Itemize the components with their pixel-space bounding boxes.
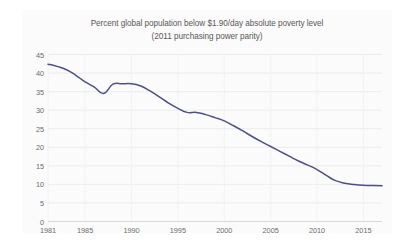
y-tick-label: 15 [22, 161, 44, 170]
chart-svg [22, 10, 392, 233]
x-tick-label: 1990 [112, 226, 152, 235]
x-tick-label: 2010 [297, 226, 337, 235]
vertical-gridlines [48, 55, 363, 222]
x-tick-label: 1995 [158, 226, 198, 235]
y-tick-label: 30 [22, 106, 44, 115]
y-tick-label: 5 [22, 198, 44, 207]
x-tick-label: 1985 [65, 226, 105, 235]
y-tick-label: 40 [22, 69, 44, 78]
x-tick-label: 2015 [343, 226, 383, 235]
plot-area: 051015202530354045 198119851990199520002… [22, 10, 392, 233]
chart-card: Percent global population below $1.90/da… [22, 10, 392, 233]
x-tick-label: 2005 [251, 226, 291, 235]
y-tick-label: 10 [22, 180, 44, 189]
y-tick-label: 35 [22, 87, 44, 96]
y-tick-label: 25 [22, 124, 44, 133]
series-line-poverty-rate [48, 64, 382, 186]
y-tick-label: 45 [22, 50, 44, 59]
x-tick-label: 1981 [28, 226, 68, 235]
x-tick-label: 2000 [204, 226, 244, 235]
y-tick-label: 20 [22, 143, 44, 152]
gridlines [48, 55, 382, 222]
